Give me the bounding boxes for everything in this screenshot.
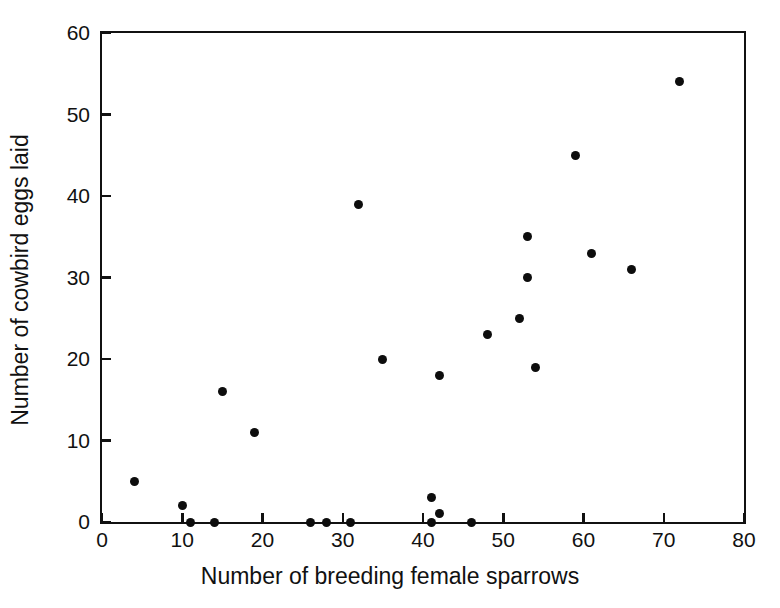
x-axis-tick (663, 513, 666, 522)
scatter-plot-figure: Number of cowbird eggs laid 010203040506… (0, 0, 780, 608)
data-point (467, 518, 476, 527)
plot-area: 010203040506070800102030405060 (102, 33, 744, 522)
x-axis-tick-label: 20 (233, 528, 293, 552)
data-point (523, 273, 532, 282)
x-axis-tick (422, 513, 425, 522)
y-axis-tick (102, 32, 111, 35)
data-point (523, 232, 532, 241)
x-axis-tick (743, 513, 746, 522)
data-point (378, 355, 387, 364)
y-axis-tick-label: 50 (30, 103, 90, 127)
x-axis-tick-label: 10 (152, 528, 212, 552)
x-axis-tick-label: 50 (473, 528, 533, 552)
data-point (435, 509, 444, 518)
data-point (427, 518, 436, 527)
y-axis-tick-label: 20 (30, 347, 90, 371)
x-axis-tick (181, 513, 184, 522)
data-point (306, 518, 315, 527)
x-axis-tick (502, 513, 505, 522)
y-axis-tick-label: 30 (30, 266, 90, 290)
data-point (627, 265, 636, 274)
data-point (322, 518, 331, 527)
data-point (218, 387, 227, 396)
data-point (346, 518, 355, 527)
x-axis-tick-label: 80 (714, 528, 774, 552)
y-axis-tick (102, 276, 111, 279)
y-axis-tick-label: 60 (30, 21, 90, 45)
x-axis-tick-label: 30 (313, 528, 373, 552)
data-point (186, 518, 195, 527)
data-point (531, 363, 540, 372)
x-axis-tick-label: 60 (554, 528, 614, 552)
data-point (435, 371, 444, 380)
y-axis-tick-label: 0 (30, 510, 90, 534)
y-axis-tick (102, 521, 111, 524)
data-point (250, 428, 259, 437)
data-point (571, 151, 580, 160)
x-axis-tick-label: 40 (393, 528, 453, 552)
y-axis-tick (102, 358, 111, 361)
data-point (427, 493, 436, 502)
y-axis-tick-label: 40 (30, 184, 90, 208)
y-axis-tick (102, 195, 111, 198)
x-axis-label: Number of breeding female sparrows (0, 562, 780, 590)
x-axis-tick (582, 513, 585, 522)
plot-frame: 010203040506070800102030405060 (100, 31, 746, 524)
data-point (354, 200, 363, 209)
x-axis-tick (342, 513, 345, 522)
y-axis-tick-label: 10 (30, 429, 90, 453)
data-point (130, 477, 139, 486)
x-axis-tick (261, 513, 264, 522)
data-point (178, 501, 187, 510)
x-axis-tick-label: 70 (634, 528, 694, 552)
data-point (483, 330, 492, 339)
y-axis-tick (102, 439, 111, 442)
data-point (587, 249, 596, 258)
y-axis-tick (102, 113, 111, 116)
data-point (515, 314, 524, 323)
data-point (210, 518, 219, 527)
data-point (675, 77, 684, 86)
